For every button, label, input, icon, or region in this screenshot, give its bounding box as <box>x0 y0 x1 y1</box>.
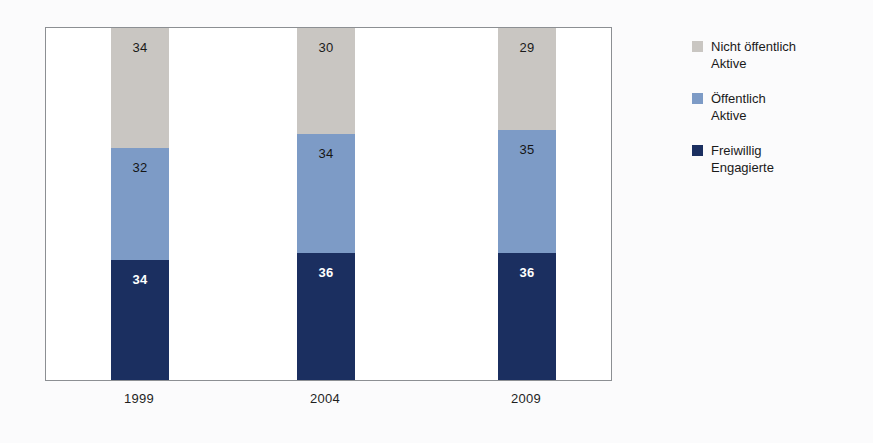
bar-segment-value: 34 <box>133 260 148 286</box>
legend-label-line1: Nicht öffentlich <box>711 39 796 54</box>
legend-swatch-icon <box>692 93 703 104</box>
bar-segment-freiwillig-engagierte[interactable]: 34 <box>111 260 169 380</box>
bar-segment-nicht-oeffentlich-aktive[interactable]: 29 <box>498 28 556 130</box>
bar-segment-value: 30 <box>319 28 334 54</box>
bar-segment-value: 36 <box>319 253 334 279</box>
legend-item-oeffentlich-aktive[interactable]: ÖffentlichAktive <box>692 90 867 124</box>
bar-segment-oeffentlich-aktive[interactable]: 34 <box>297 134 355 254</box>
legend-item-label: FreiwilligEngagierte <box>711 142 774 176</box>
bar-segment-value: 32 <box>133 148 148 174</box>
legend-swatch-icon <box>692 145 703 156</box>
bar-segment-value: 34 <box>133 28 148 54</box>
bar-segment-value: 29 <box>520 28 535 54</box>
axis-tick-label-2009: 2009 <box>486 391 566 406</box>
plot-area: 34 32 34 30 34 36 <box>45 27 612 381</box>
legend-label-line2: Aktive <box>711 108 746 123</box>
legend-label-line1: Freiwillig <box>711 143 762 158</box>
legend-label-line2: Aktive <box>711 56 746 71</box>
legend-label-line2: Engagierte <box>711 160 774 175</box>
legend-item-nicht-oeffentlich-aktive[interactable]: Nicht öffentlichAktive <box>692 38 867 72</box>
bar-segment-freiwillig-engagierte[interactable]: 36 <box>498 253 556 380</box>
bar-column-2004[interactable]: 30 34 36 <box>297 28 355 380</box>
bar-segment-freiwillig-engagierte[interactable]: 36 <box>297 253 355 380</box>
category-axis: 1999 2004 2009 <box>45 383 612 413</box>
axis-tick-label-2004: 2004 <box>285 391 365 406</box>
bar-column-2009[interactable]: 29 35 36 <box>498 28 556 380</box>
legend-item-label: ÖffentlichAktive <box>711 90 766 124</box>
axis-tick-label-1999: 1999 <box>99 391 179 406</box>
bar-segment-oeffentlich-aktive[interactable]: 35 <box>498 130 556 253</box>
legend-item-freiwillig-engagierte[interactable]: FreiwilligEngagierte <box>692 142 867 176</box>
bars-layer: 34 32 34 30 34 36 <box>46 28 611 380</box>
stacked-bar-chart: 34 32 34 30 34 36 <box>0 0 873 443</box>
bar-segment-value: 35 <box>520 130 535 156</box>
legend-label-line1: Öffentlich <box>711 91 766 106</box>
bar-column-1999[interactable]: 34 32 34 <box>111 28 169 380</box>
bar-segment-value: 36 <box>520 253 535 279</box>
bar-segment-value: 34 <box>319 134 334 160</box>
legend-item-label: Nicht öffentlichAktive <box>711 38 796 72</box>
bar-segment-nicht-oeffentlich-aktive[interactable]: 30 <box>297 28 355 134</box>
bar-segment-nicht-oeffentlich-aktive[interactable]: 34 <box>111 28 169 148</box>
chart-legend: Nicht öffentlichAktive ÖffentlichAktive … <box>692 38 867 194</box>
bar-segment-oeffentlich-aktive[interactable]: 32 <box>111 148 169 261</box>
legend-swatch-icon <box>692 41 703 52</box>
